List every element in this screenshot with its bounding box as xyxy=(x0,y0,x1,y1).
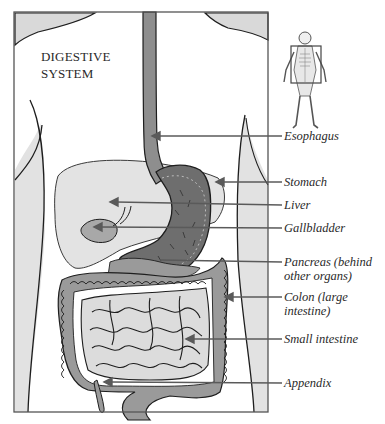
label-stomach: Stomach xyxy=(284,175,327,189)
skeleton-inset-icon xyxy=(284,32,326,128)
label-esophagus: Esophagus xyxy=(284,129,339,143)
digestive-system-diagram: DIGESTIVE SYSTEM Esophagus Stomach Liver… xyxy=(0,0,385,424)
label-liver: Liver xyxy=(284,198,310,212)
label-colon: Colon (large intestine) xyxy=(284,290,348,318)
esophagus-shape xyxy=(143,12,168,184)
label-appendix: Appendix xyxy=(284,376,331,390)
label-pancreas: Pancreas (behind other organs) xyxy=(284,255,372,283)
title-line-1: DIGESTIVE xyxy=(41,48,111,65)
title-line-2: SYSTEM xyxy=(41,65,111,82)
label-gallbladder: Gallbladder xyxy=(284,221,345,235)
label-small-intestine: Small intestine xyxy=(284,332,358,346)
diagram-title: DIGESTIVE SYSTEM xyxy=(41,48,111,82)
